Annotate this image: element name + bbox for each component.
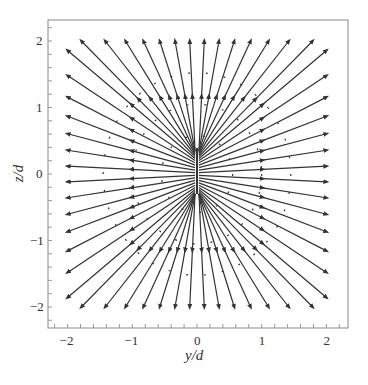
- field-line: [199, 41, 251, 152]
- field-line: [68, 134, 195, 168]
- field-line: [68, 180, 195, 214]
- field-line: [199, 187, 326, 272]
- field-line: [68, 76, 195, 161]
- field-line: [105, 41, 195, 155]
- x-tick-label: 1: [259, 333, 266, 349]
- y-axis-label: z/d: [10, 165, 27, 183]
- field-line: [68, 190, 195, 298]
- field-line: [199, 180, 326, 214]
- field-line: [199, 76, 326, 161]
- vector-field-chart: [0, 0, 368, 385]
- x-tick-label: −2: [60, 333, 74, 349]
- field-line: [199, 50, 326, 158]
- field-line: [199, 134, 326, 168]
- field-line: [68, 50, 195, 158]
- field-line: [199, 190, 326, 298]
- y-tick-label: 1: [36, 100, 43, 116]
- field-line: [160, 41, 195, 152]
- field-line: [105, 193, 195, 307]
- y-tick-label: −2: [30, 299, 44, 315]
- x-tick-label: −1: [124, 333, 138, 349]
- field-line: [199, 194, 234, 307]
- field-line: [199, 41, 289, 155]
- field-line: [160, 194, 195, 307]
- y-tick-label: 2: [36, 33, 43, 49]
- x-tick-label: 2: [323, 333, 330, 349]
- field-line: [199, 193, 289, 307]
- field-line: [68, 187, 195, 272]
- y-tick-label: −1: [30, 233, 44, 249]
- y-tick-label: 0: [36, 166, 43, 182]
- x-axis-label: y/d: [185, 347, 203, 364]
- field-line: [199, 41, 234, 152]
- field-line: [143, 41, 195, 152]
